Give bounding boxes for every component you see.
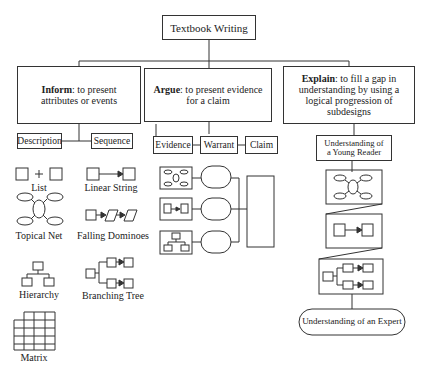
- pattern-hierarchy-label: Hierarchy: [9, 289, 69, 300]
- warrant-node: Warrant: [200, 136, 238, 154]
- young-reader-label: Understanding of a Young Reader: [323, 139, 385, 157]
- young-reader-node: Understanding of a Young Reader: [316, 135, 392, 161]
- explain-node: Explain: to fill a gap in understanding …: [283, 66, 415, 124]
- description-label: Description: [17, 136, 61, 146]
- expert-label: Understanding of an Expert: [299, 316, 405, 326]
- inform-name: Inform: [42, 84, 73, 95]
- pattern-list-label: List: [9, 182, 69, 193]
- inform-node: Inform: to present attributes or events: [17, 66, 141, 124]
- explain-name: Explain: [302, 73, 335, 84]
- pattern-branching-tree-label: Branching Tree: [76, 290, 150, 301]
- root-node: Textbook Writing: [162, 15, 256, 40]
- pattern-linear-string-label: Linear String: [76, 182, 146, 193]
- claim-node: Claim: [245, 136, 278, 154]
- pattern-falling-dominoes-label: Falling Dominoes: [73, 230, 153, 241]
- argue-name: Argue: [153, 84, 180, 95]
- claim-label: Claim: [250, 140, 273, 150]
- argue-text: Argue: to present evidence for a claim: [149, 84, 267, 106]
- root-label: Textbook Writing: [170, 22, 248, 34]
- evidence-node: Evidence: [153, 136, 193, 154]
- inform-text: Inform: to present attributes or events: [22, 84, 136, 106]
- sequence-label: Sequence: [94, 136, 130, 146]
- argue-node: Argue: to present evidence for a claim: [144, 68, 272, 122]
- warrant-label: Warrant: [204, 140, 234, 150]
- sequence-node: Sequence: [91, 133, 133, 149]
- argue-desc: : to present evidence for a claim: [180, 84, 262, 106]
- pattern-topical-net-label: Topical Net: [9, 230, 69, 241]
- description-node: Description: [17, 133, 62, 149]
- pattern-matrix-label: Matrix: [4, 352, 64, 363]
- evidence-label: Evidence: [155, 140, 190, 150]
- explain-text: Explain: to fill a gap in understanding …: [290, 73, 408, 117]
